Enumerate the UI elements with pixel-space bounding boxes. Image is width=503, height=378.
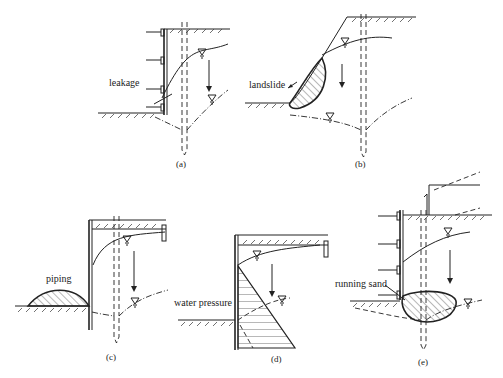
panel-e-label: running sand [335, 278, 387, 289]
panel-b-label: landslide [249, 79, 286, 90]
panel-e: running sand (e) [335, 172, 492, 367]
panel-b: landslide (b) [245, 14, 416, 169]
panel-d: water pressure (d) [174, 235, 328, 364]
panel-c-label: piping [46, 273, 72, 284]
failure-modes-diagram: leakage (a) landslide (b) [0, 0, 503, 378]
panel-a-caption: (a) [176, 159, 186, 169]
panel-c-caption: (c) [106, 352, 116, 362]
panel-d-caption: (d) [271, 354, 282, 364]
panel-b-caption: (b) [355, 159, 366, 169]
panel-a: leakage (a) [98, 22, 230, 169]
panel-d-label: water pressure [174, 297, 233, 308]
panel-c: piping (c) [15, 216, 168, 362]
panel-e-caption: (e) [418, 357, 428, 367]
panel-a-label: leakage [109, 77, 140, 88]
